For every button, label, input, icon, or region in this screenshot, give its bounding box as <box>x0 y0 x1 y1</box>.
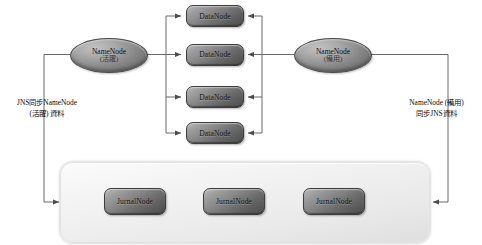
caption-left-line1: JNS同步NameNode <box>1 98 93 109</box>
journalnode-2-label: JurnalNode <box>216 197 252 206</box>
namenode-active-state: (活躍) <box>100 56 119 63</box>
datanode-4-label: DataNode <box>199 129 231 138</box>
datanode-1[interactable]: DataNode <box>186 5 244 27</box>
journalnode-3-label: JurnalNode <box>316 197 352 206</box>
namenode-standby-state: (備用) <box>324 56 343 63</box>
diagram-canvas: DataNode DataNode DataNode DataNode Name… <box>0 0 482 245</box>
journalnode-3[interactable]: JurnalNode <box>303 188 365 215</box>
journalnode-1[interactable]: JurnalNode <box>104 188 166 215</box>
datanode-3[interactable]: DataNode <box>186 86 244 108</box>
namenode-active[interactable]: NameNode (活躍) <box>70 38 148 73</box>
caption-left-line2: (活躍) 資料 <box>1 109 93 120</box>
caption-left: JNS同步NameNode (活躍) 資料 <box>1 98 93 119</box>
caption-right-line1: NameNode (備用) <box>392 98 481 109</box>
datanode-4[interactable]: DataNode <box>186 122 244 144</box>
datanode-3-label: DataNode <box>199 93 231 102</box>
datanode-2[interactable]: DataNode <box>186 44 244 66</box>
caption-right-line2: 同步JNS資料 <box>392 109 481 120</box>
datanode-2-label: DataNode <box>199 50 231 59</box>
journalnode-2[interactable]: JurnalNode <box>203 188 265 215</box>
datanode-1-label: DataNode <box>199 12 231 21</box>
caption-right: NameNode (備用) 同步JNS資料 <box>392 98 481 119</box>
namenode-standby[interactable]: NameNode (備用) <box>294 38 372 73</box>
journalnode-1-label: JurnalNode <box>117 197 153 206</box>
